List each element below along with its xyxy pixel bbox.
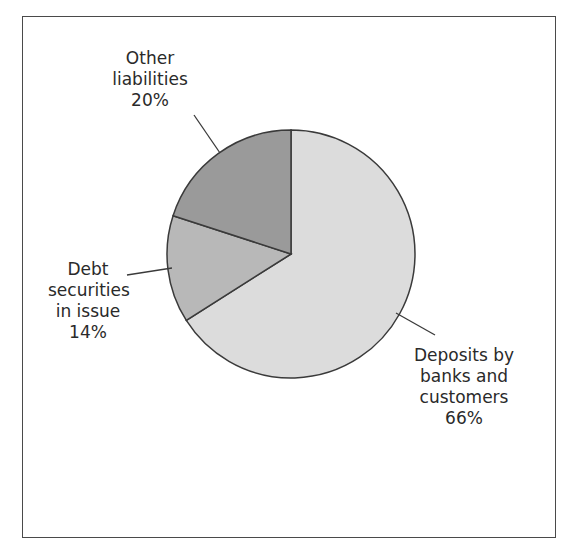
- label-text: Deposits by: [400, 345, 528, 366]
- label-text: securities: [48, 280, 128, 301]
- label-text: Other: [100, 48, 200, 69]
- label-debt-securities: Debt securities in issue 14%: [48, 259, 128, 343]
- label-text: customers: [400, 387, 528, 408]
- label-percent: 66%: [400, 408, 528, 429]
- label-text: banks and: [400, 366, 528, 387]
- label-percent: 14%: [48, 322, 128, 343]
- leader-line-other: [194, 115, 220, 153]
- label-text: liabilities: [100, 69, 200, 90]
- label-deposits: Deposits by banks and customers 66%: [400, 345, 528, 429]
- label-percent: 20%: [100, 90, 200, 111]
- label-other-liabilities: Other liabilities 20%: [100, 48, 200, 111]
- label-text: in issue: [48, 301, 128, 322]
- leader-line-deposits: [396, 313, 435, 335]
- label-text: Debt: [48, 259, 128, 280]
- leader-line-debt: [127, 268, 172, 275]
